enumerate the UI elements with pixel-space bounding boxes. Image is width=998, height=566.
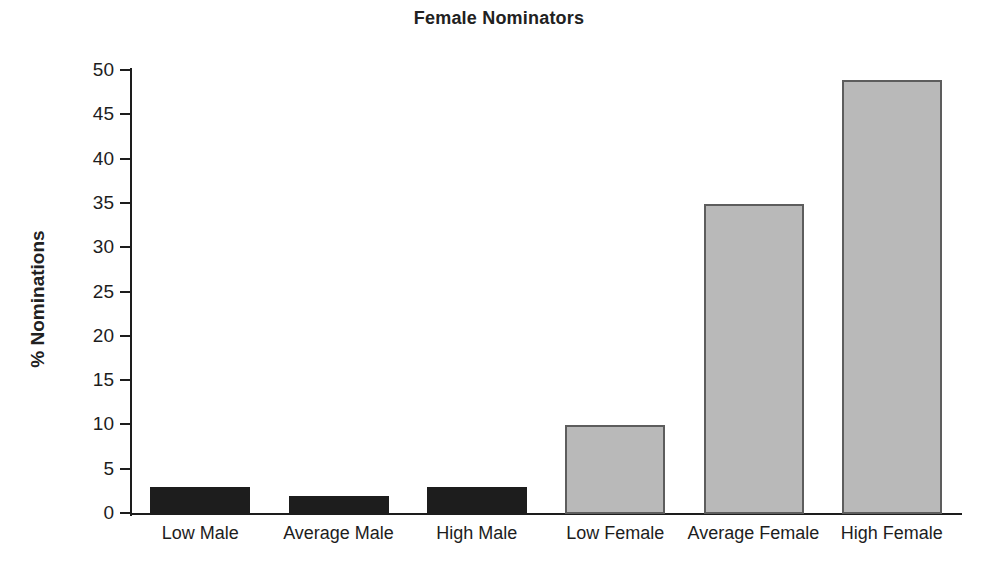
y-axis-tick	[120, 423, 130, 425]
page-title: Female Nominators	[0, 8, 998, 29]
bar-low-male[interactable]	[150, 487, 250, 514]
bar-average-female[interactable]	[704, 204, 804, 514]
y-axis-tick-label: 0	[58, 503, 114, 522]
y-axis-tick	[120, 291, 130, 293]
y-axis-tick	[120, 468, 130, 470]
y-axis-tick	[120, 246, 130, 248]
y-axis-tick-label: 5	[58, 459, 114, 478]
x-axis-tick-label-low-male: Low Male	[131, 524, 269, 542]
y-axis-tick-label: 25	[58, 282, 114, 301]
y-axis-tick-label: 35	[58, 193, 114, 212]
chart-figure: Female Nominators % Nominations 05101520…	[0, 0, 998, 566]
y-axis-tick-label: 45	[58, 104, 114, 123]
plot-area	[131, 70, 961, 514]
bar-average-male[interactable]	[289, 496, 389, 514]
x-axis-tick-label-high-female: High Female	[823, 524, 961, 542]
y-axis-tick	[120, 335, 130, 337]
y-axis-tick	[120, 69, 130, 71]
y-axis-tick	[120, 379, 130, 381]
x-axis-tick-label-high-male: High Male	[408, 524, 546, 542]
y-axis-tick	[120, 202, 130, 204]
y-axis-title: % Nominations	[27, 189, 49, 409]
bar-low-female[interactable]	[565, 425, 665, 514]
bar-high-female[interactable]	[842, 80, 942, 514]
y-axis-tick-label: 30	[58, 237, 114, 256]
x-axis-tick-label-average-female: Average Female	[684, 524, 822, 542]
y-axis-tick-label: 40	[58, 149, 114, 168]
y-axis-tick-label: 50	[58, 60, 114, 79]
bar-high-male[interactable]	[427, 487, 527, 514]
x-axis-tick-label-low-female: Low Female	[546, 524, 684, 542]
y-axis-tick	[120, 113, 130, 115]
y-axis-tick-label: 10	[58, 414, 114, 433]
x-axis-tick-label-average-male: Average Male	[269, 524, 407, 542]
y-axis-tick-label: 15	[58, 370, 114, 389]
y-axis-tick	[120, 158, 130, 160]
y-axis-tick	[120, 512, 130, 514]
y-axis-tick-label: 20	[58, 326, 114, 345]
